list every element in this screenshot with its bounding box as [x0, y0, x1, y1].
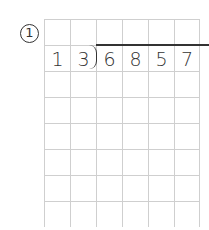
- answer-cell[interactable]: [148, 19, 174, 45]
- answer-cell[interactable]: [44, 19, 70, 45]
- answer-cell[interactable]: [44, 149, 70, 175]
- answer-cell[interactable]: [122, 97, 148, 123]
- answer-cell[interactable]: [148, 149, 174, 175]
- answer-cell[interactable]: [174, 175, 200, 201]
- answer-cell[interactable]: [122, 123, 148, 149]
- answer-cell[interactable]: [174, 71, 200, 97]
- answer-cell[interactable]: [44, 175, 70, 201]
- answer-cell[interactable]: [174, 19, 200, 45]
- problem-number-badge: 1: [20, 24, 39, 43]
- answer-cell[interactable]: [70, 71, 96, 97]
- answer-cell[interactable]: [70, 201, 96, 227]
- answer-cell[interactable]: [122, 71, 148, 97]
- answer-cell[interactable]: [70, 149, 96, 175]
- answer-cell[interactable]: [174, 149, 200, 175]
- division-bar: [96, 44, 209, 46]
- answer-cell[interactable]: [70, 123, 96, 149]
- answer-cell[interactable]: [44, 201, 70, 227]
- answer-cell[interactable]: [44, 123, 70, 149]
- answer-cell[interactable]: [174, 123, 200, 149]
- answer-cell[interactable]: [148, 123, 174, 149]
- answer-cell[interactable]: [44, 97, 70, 123]
- answer-cell[interactable]: [70, 175, 96, 201]
- answer-cell[interactable]: [122, 201, 148, 227]
- answer-cell[interactable]: [122, 149, 148, 175]
- dividend-digit-cell[interactable]: 8: [122, 45, 148, 71]
- answer-cell[interactable]: [122, 19, 148, 45]
- answer-cell[interactable]: [174, 97, 200, 123]
- answer-cell[interactable]: [122, 175, 148, 201]
- dividend-digit-cell[interactable]: 5: [148, 45, 174, 71]
- divisor-digit-cell[interactable]: 1: [44, 45, 70, 71]
- answer-cell[interactable]: [44, 71, 70, 97]
- answer-cell[interactable]: [96, 19, 122, 45]
- answer-cell[interactable]: [96, 71, 122, 97]
- answer-cell[interactable]: [148, 201, 174, 227]
- answer-cell[interactable]: [70, 97, 96, 123]
- answer-cell[interactable]: [70, 19, 96, 45]
- dividend-digit-cell[interactable]: 7: [174, 45, 200, 71]
- answer-cell[interactable]: [96, 97, 122, 123]
- answer-cell[interactable]: [96, 175, 122, 201]
- answer-cell[interactable]: [96, 149, 122, 175]
- answer-cell[interactable]: [96, 123, 122, 149]
- answer-cell[interactable]: [148, 97, 174, 123]
- answer-cell[interactable]: [174, 201, 200, 227]
- dividend-digit-cell[interactable]: 6: [96, 45, 122, 71]
- answer-cell[interactable]: [96, 201, 122, 227]
- answer-cell[interactable]: [148, 71, 174, 97]
- answer-cell[interactable]: [148, 175, 174, 201]
